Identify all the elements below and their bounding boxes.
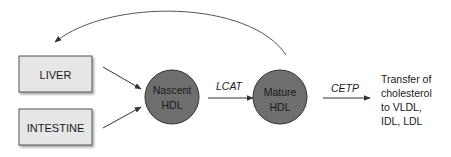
nascent-line1: Nascent xyxy=(153,84,192,96)
cetp-label: CETP xyxy=(331,82,359,94)
lcat-label: LCAT xyxy=(216,80,244,92)
nascent-line2: HDL xyxy=(161,99,182,111)
intestine-label: INTESTINE xyxy=(27,122,84,134)
outcome-line4: IDL, LDL xyxy=(381,115,423,127)
hdl-metabolism-diagram: LIVER INTESTINE Nascent HDL LCAT Mature … xyxy=(0,0,451,157)
outcome-text: Transfer of cholesterol to VLDL, IDL, LD… xyxy=(381,73,432,127)
mature-line1: Mature xyxy=(264,86,297,98)
outcome-line1: Transfer of xyxy=(381,73,431,85)
intestine-to-nascent-arrow xyxy=(103,107,141,128)
mature-line2: HDL xyxy=(269,101,290,113)
liver-to-nascent-arrow xyxy=(103,67,141,89)
liver-box: LIVER xyxy=(19,56,92,92)
liver-label: LIVER xyxy=(40,69,72,81)
mature-hdl-node: Mature HDL xyxy=(253,70,307,124)
outcome-line2: cholesterol xyxy=(381,87,432,99)
nascent-hdl-node: Nascent HDL xyxy=(145,70,199,124)
outcome-line3: to VLDL, xyxy=(381,101,422,113)
intestine-box: INTESTINE xyxy=(19,109,92,145)
return-curve-arrow xyxy=(55,11,286,55)
